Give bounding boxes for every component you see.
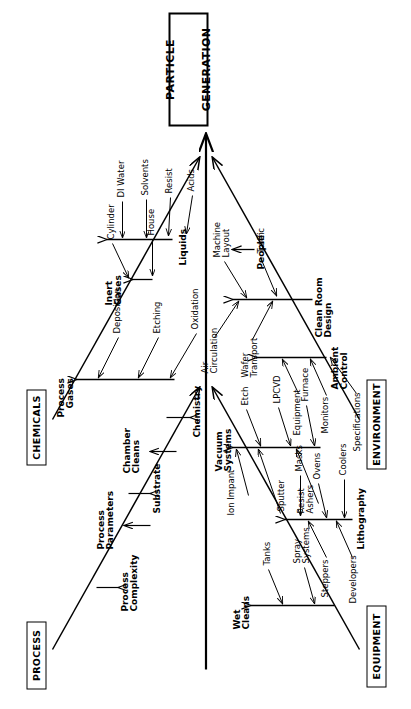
label-chemistry: Chemistry [192, 385, 201, 437]
label-machine-layout: Machine Layout [212, 221, 229, 257]
label-developers: Developers [348, 555, 357, 603]
twig-tanks [268, 569, 282, 603]
twig-oxidation [170, 333, 196, 377]
twig-ovens [318, 483, 326, 517]
label-oxidation: Oxidation [190, 288, 199, 329]
twig-etching [138, 337, 158, 377]
label-wafer-transport: Wafer Transport [240, 337, 257, 377]
twig-cylinder [112, 243, 128, 277]
label-lpcvd: LPCVD [272, 375, 281, 403]
twig-furnace [306, 405, 314, 445]
label-ovens: Ovens [312, 452, 321, 479]
effect-box: PARTICLE GENERATION [168, 12, 208, 126]
label-inert-gases: Inert Gases [104, 275, 122, 305]
twig-equipment [282, 359, 298, 393]
effect-line-1: PARTICLE [164, 27, 176, 111]
label-ambient-control: Ambient Control [330, 346, 348, 389]
label-resist-ashers: Resist Ashers [296, 484, 313, 513]
twig-etch [246, 409, 260, 445]
label-traffic: Traffic [256, 227, 265, 253]
twig-lpcvd [278, 407, 290, 445]
twig-resist [168, 197, 170, 235]
label-solvents: Solvents [140, 159, 149, 195]
label-etch: Etch [240, 386, 249, 405]
category-box-process: PROCESS [26, 621, 46, 689]
fishbone-diagram: PARTICLE GENERATION CHEMICALS PROCESS EN… [0, 0, 411, 709]
twig-ion-impant [236, 449, 248, 495]
twig-monitors [310, 359, 326, 395]
label-process-complexity: Process Complexity [120, 554, 138, 611]
label-substrate: Substrate [152, 463, 161, 513]
label-cylinder: Cylinder [106, 204, 115, 239]
label-monitors: Monitors [320, 396, 329, 433]
category-box-environment: ENVIRONMENT [366, 379, 386, 469]
label-di-water: DI Water [116, 160, 125, 197]
label-process-parameters: Process Parameters [96, 490, 114, 549]
twig-deposition [98, 337, 118, 377]
label-etching: Etching [152, 301, 161, 333]
label-clean-room-design: Clean Room Design [314, 277, 332, 337]
label-tanks: Tanks [262, 541, 271, 565]
label-air-circulation: Air Circulation [200, 327, 217, 373]
twig-spray-systems [304, 567, 314, 603]
twig-machine-layout [224, 261, 246, 297]
label-resist: Resist [164, 168, 173, 193]
label-chamber-cleans: Chamber Cleans [122, 428, 140, 473]
label-lithography: Lithography [356, 488, 365, 549]
effect-line-2: GENERATION [200, 27, 212, 111]
twig-steppers [308, 521, 326, 557]
label-ion-impant: Ion Impant [226, 469, 235, 515]
category-box-chemicals: CHEMICALS [26, 389, 46, 465]
label-process-gases: Process Gases [56, 378, 74, 417]
label-liquids: Liquids [178, 228, 187, 265]
label-spray-systems: Spray Systems [292, 527, 309, 563]
label-furnace: Furnace [300, 367, 309, 401]
label-sputter: Sputter [276, 479, 285, 511]
label-acids: Acids [186, 168, 195, 191]
twig-acids [186, 195, 192, 233]
label-steppers: Steppers [320, 559, 329, 597]
twig-wafer-transport [252, 301, 272, 339]
label-vacuum-systems: Vacuum Systems [214, 428, 232, 471]
diagram-canvas: PARTICLE GENERATION CHEMICALS PROCESS EN… [0, 0, 411, 709]
label-masks: Masks [294, 445, 303, 471]
label-coolers: Coolers [338, 443, 347, 475]
twig-developers [336, 521, 352, 557]
label-specifications: Specifications [352, 392, 361, 451]
label-wet-cleans: Wet Cleans [232, 595, 250, 629]
category-box-equipment: EQUIPMENT [366, 605, 386, 687]
label-house: House [146, 208, 155, 235]
